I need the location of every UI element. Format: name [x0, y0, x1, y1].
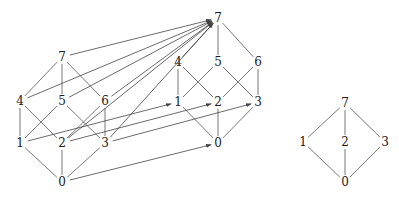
lattice-node-b3: 3	[254, 96, 262, 108]
lattice-node-r3: 3	[381, 136, 389, 148]
lattice-edge	[308, 147, 340, 177]
lattice-node-f6: 6	[101, 95, 109, 107]
mapping-arrow	[70, 104, 211, 141]
lattice-node-b5: 5	[214, 56, 222, 68]
lattice-node-f7: 7	[58, 51, 66, 63]
mapping-arrow	[113, 104, 252, 141]
lattice-node-r7: 7	[341, 97, 349, 109]
lattice-node-f1: 1	[16, 137, 24, 149]
lattice-edge	[25, 62, 57, 96]
lattice-node-b2: 2	[214, 96, 222, 108]
lattice-node-r2: 2	[341, 136, 349, 148]
figure-canvas: 012345670123456701237	[0, 0, 399, 198]
mapping-arrow	[27, 21, 211, 98]
lattice-node-r0: 0	[341, 176, 349, 188]
lattice-node-b1: 1	[174, 96, 182, 108]
lattice-edge	[308, 108, 340, 137]
mapping-arrow	[111, 22, 212, 96]
lattice-node-f3: 3	[101, 137, 109, 149]
lattice-edge	[223, 107, 253, 138]
lattice-edge	[25, 148, 57, 177]
mapping-arrow	[70, 145, 211, 180]
lattice-node-b7: 7	[214, 12, 222, 24]
lattice-edge	[350, 108, 380, 137]
lattice-edges-group	[20, 23, 380, 177]
lattice-edge	[67, 148, 100, 178]
lattice-node-b6: 6	[254, 56, 262, 68]
mapping-arrow	[70, 20, 211, 55]
lattice-node-r1: 1	[299, 136, 307, 148]
lattice-node-f0: 0	[58, 176, 66, 188]
mapping-arrow	[28, 104, 171, 141]
lattice-node-f2: 2	[58, 137, 66, 149]
mapping-arrow	[68, 22, 212, 138]
lattice-node-b4: 4	[174, 56, 182, 68]
lattice-node-f4: 4	[16, 95, 24, 107]
mapping-arrow	[110, 23, 213, 137]
lattice-edge	[183, 107, 213, 138]
lattice-edge	[223, 23, 254, 57]
lattice-node-f5: 5	[58, 95, 66, 107]
mapping-arrow	[69, 21, 212, 97]
lattice-node-b0: 0	[214, 137, 222, 149]
lattice-edge	[350, 147, 380, 177]
